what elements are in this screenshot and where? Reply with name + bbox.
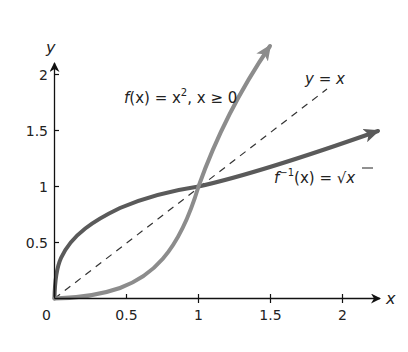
inverse-function-chart: 0 0.5 1 1.5 2 0.5 1 1.5 2 x y f(x) = x2,… <box>0 0 408 352</box>
x-tick-label-1: 1 <box>194 307 203 323</box>
y-tick-label-1: 1 <box>39 179 48 195</box>
origin-label: 0 <box>42 307 51 323</box>
sqrt-function-path <box>55 131 379 299</box>
identity-label: y = x <box>304 70 345 88</box>
inverse-sqrt-curve <box>55 119 199 298</box>
square-function-label: f(x) = x2, x ≥ 0 <box>124 87 237 107</box>
square-function-path <box>55 46 271 299</box>
x-tick-label-2: 2 <box>338 307 347 323</box>
x-axis-label: x <box>385 289 396 308</box>
y-tick-label-2: 2 <box>39 67 48 83</box>
x-tick-label-1.5: 1.5 <box>259 307 281 323</box>
y-tick-label-1.5: 1.5 <box>26 123 48 139</box>
y-ticks <box>55 75 60 243</box>
y-tick-label-0.5: 0.5 <box>26 235 48 251</box>
y-axis-label: y <box>45 38 56 57</box>
inverse-function-label: f−1(x) = √x <box>274 167 355 187</box>
x-tick-label-0.5: 0.5 <box>115 307 137 323</box>
inverse-sqrt-line <box>55 168 199 299</box>
identity-line <box>55 89 328 299</box>
